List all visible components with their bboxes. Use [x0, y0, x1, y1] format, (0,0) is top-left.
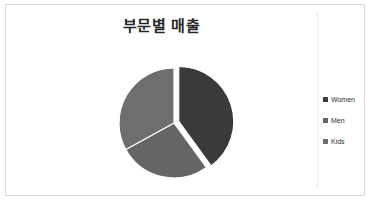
legend-label: Men [331, 117, 345, 124]
chart-frame: 부문별 매출 Women Men Kids [5, 4, 365, 196]
square-marker-icon [323, 97, 328, 102]
square-marker-icon [323, 139, 328, 144]
chart-legend: Women Men Kids [323, 91, 371, 154]
pie-plot-area [6, 5, 317, 195]
legend-label: Kids [331, 138, 345, 145]
legend-item-men[interactable]: Men [323, 112, 371, 128]
legend-label: Women [331, 96, 355, 103]
legend-divider [317, 11, 318, 189]
chart-screenshot: 부문별 매출 Women Men Kids [0, 0, 371, 203]
square-marker-icon [323, 118, 328, 123]
pie-chart-svg [6, 5, 317, 195]
legend-item-women[interactable]: Women [323, 91, 371, 107]
legend-item-kids[interactable]: Kids [323, 133, 371, 149]
